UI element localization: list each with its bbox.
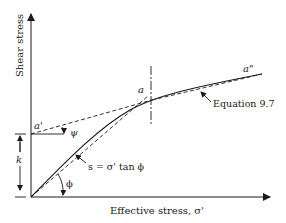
linear-envelope-leader [76,155,86,163]
label-phi: ϕ [66,178,73,189]
psi-angle-arc [62,127,64,133]
dashed-line-a-double-prime [152,74,262,100]
x-axis-label: Effective stress, σ' [110,205,204,216]
y-axis-label: Shear stress [14,14,25,77]
shear-strength-diagram: Shear stress Effective stress, σ' a' a a… [0,0,286,223]
label-k: k [16,154,22,165]
label-psi: ψ [70,127,78,138]
label-linear-envelope: s = σ' tan ϕ [88,161,145,172]
label-equation-curve: Equation 9.7 [213,98,275,109]
label-a-prime: a' [34,120,43,131]
dashed-line-a-prime [31,100,152,134]
equation-leader [201,92,211,102]
label-a: a [138,84,144,95]
label-a-double-prime: a" [243,63,254,74]
phi-angle-arc [58,174,63,195]
dashed-linear-envelope [31,96,148,197]
